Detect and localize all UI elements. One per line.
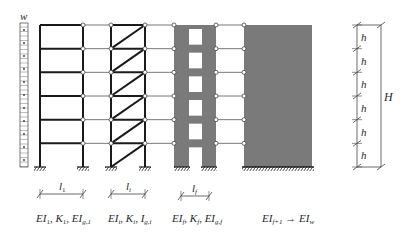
span-dim-frame: l1 <box>37 180 86 199</box>
hinge-icon <box>109 118 113 122</box>
hinge-icon <box>242 118 246 122</box>
hinge-icon <box>242 23 246 27</box>
wall-opening <box>189 53 202 69</box>
wall-opening <box>189 100 202 116</box>
frame-properties: EI1, K1, EIg,1 <box>35 212 91 226</box>
rigid-frame <box>34 25 89 171</box>
brace-diagonal <box>111 96 145 120</box>
hinge-icon <box>143 141 147 145</box>
fixed-support-icon <box>77 167 89 171</box>
hinge-icon <box>81 141 85 145</box>
hinge-icon <box>143 23 147 27</box>
span-label: l1 <box>59 180 66 194</box>
hinge-icon <box>109 70 113 74</box>
hinge-icon <box>172 47 176 51</box>
fixed-support-icon <box>105 167 117 171</box>
storey-height-label: h <box>361 31 367 43</box>
wall-opening <box>189 147 202 167</box>
structural-system-diagram: w <box>0 0 413 233</box>
hinge-icon <box>143 47 147 51</box>
brace-diagonal <box>111 120 145 144</box>
hinge-icon <box>81 23 85 27</box>
hinge-icon <box>172 118 176 122</box>
hinge-icon <box>172 94 176 98</box>
wall-opening <box>189 29 202 45</box>
hinge-icon <box>214 141 218 145</box>
hinge-icon <box>81 118 85 122</box>
hinge-icon <box>109 47 113 51</box>
coupled-wall-body <box>174 25 216 167</box>
hinge-icon <box>109 94 113 98</box>
hinge-icon <box>242 141 246 145</box>
hinge-icon <box>242 47 246 51</box>
span-dim-coupled: lf <box>178 182 212 201</box>
fixed-support-icon <box>34 167 46 171</box>
hinge-icon <box>143 94 147 98</box>
hinge-icon <box>172 23 176 27</box>
height-dimensions: hhhhhh H <box>352 22 394 170</box>
hinge-icon <box>214 94 218 98</box>
distributed-load: w <box>20 10 28 167</box>
brace-members <box>111 25 145 167</box>
coupled-wall <box>174 25 217 171</box>
brace-diagonal <box>111 49 145 73</box>
hinge-icon <box>172 141 176 145</box>
hinge-icon <box>214 47 218 51</box>
hinge-icon <box>143 70 147 74</box>
hinge-icon <box>172 70 176 74</box>
brace-diagonal <box>111 72 145 96</box>
brace-diagonal <box>111 143 145 167</box>
storey-height-label: h <box>361 149 367 161</box>
hinge-icon <box>109 141 113 145</box>
hinge-icon <box>81 70 85 74</box>
span-label: li <box>126 180 131 194</box>
hinge-icon <box>214 23 218 27</box>
span-dimensions: l1 li lf <box>37 180 212 201</box>
hinge-icon <box>242 70 246 74</box>
wall-opening <box>189 76 202 92</box>
brace-properties: EIi, Ki, Ig,i <box>107 212 152 226</box>
fixed-support-icon <box>139 167 151 171</box>
span-label: lf <box>192 182 198 196</box>
storey-height-label: h <box>361 102 367 114</box>
storey-height-label: h <box>361 55 367 67</box>
hinge-icon <box>81 47 85 51</box>
fixed-support-icon <box>174 167 190 171</box>
fixed-support-icon <box>201 167 217 171</box>
frame-beams <box>40 25 83 143</box>
hinge-icon <box>214 70 218 74</box>
hinge-icon <box>109 23 113 27</box>
total-height-label: H <box>383 90 394 104</box>
span-dim-brace: li <box>108 180 148 199</box>
hinge-icon <box>242 94 246 98</box>
property-labels: EI1, K1, EIg,1 EIi, Ki, Ig,i EIf, Kf, EI… <box>35 212 314 226</box>
load-arrows <box>20 27 28 167</box>
coupled-wall-properties: EIf, Kf, EIg,f <box>171 212 223 226</box>
hinge-icon <box>214 118 218 122</box>
shear-wall-body <box>244 25 312 167</box>
hinged-links <box>81 23 246 145</box>
brace-diagonal <box>111 25 145 49</box>
hinge-icon <box>143 118 147 122</box>
shear-wall-properties: EIf+1 → EIw <box>261 212 314 226</box>
storey-height-label: h <box>361 78 367 90</box>
hinge-icon <box>81 94 85 98</box>
load-label: w <box>20 10 28 22</box>
wall-opening <box>189 124 202 140</box>
storey-height-label: h <box>361 126 367 138</box>
shear-wall <box>242 25 314 171</box>
